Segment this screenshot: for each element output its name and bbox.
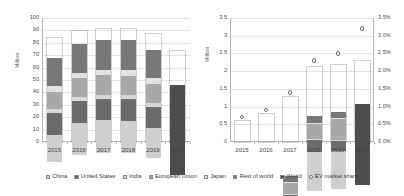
- y2-axis-tick-label: 0.0%: [378, 139, 391, 145]
- bar-segment-european-union: [47, 92, 62, 110]
- y-axis-tick-label: 40: [24, 89, 39, 95]
- y-axis-tick-label: 0.5: [214, 121, 227, 127]
- plot-area-right: 00.511.522.533.50.0%0.5%1.0%1.5%2.0%2.5%…: [230, 18, 374, 142]
- gridline: [230, 53, 374, 54]
- y-axis-tick-label: 0: [24, 139, 39, 145]
- x-axis-tick-label-2018: 2018: [116, 147, 141, 153]
- legend-item-label: Japan: [210, 174, 226, 180]
- x-axis-tick: [141, 142, 142, 144]
- gridline: [230, 71, 374, 72]
- bar-segment-india: [47, 109, 62, 113]
- gridline: [42, 68, 190, 69]
- y-axis-tick-label: 90: [24, 27, 39, 33]
- x-axis-tick: [302, 142, 303, 144]
- y2-axis-tick-label: 1.5%: [378, 86, 391, 92]
- y-axis-tick-label: 2: [214, 68, 227, 74]
- x-axis-tick: [165, 142, 166, 144]
- legend-item-japan[interactable]: Japan: [204, 174, 226, 180]
- legend-item-rest-of-world[interactable]: Rest of world: [233, 174, 273, 180]
- x-axis-tick-label-2020: 2020: [350, 147, 374, 153]
- y-axis-tick-label: 60: [24, 65, 39, 71]
- bar-segment-rest-of-world: [146, 50, 161, 78]
- bar-segment-japan: [331, 118, 346, 119]
- square-swatch-icon: [204, 175, 208, 179]
- legend-item-european-union[interactable]: European Union: [149, 174, 197, 180]
- gridline: [42, 80, 190, 81]
- legend-item-china[interactable]: China: [46, 174, 68, 180]
- x-axis-tick: [91, 142, 92, 144]
- square-swatch-icon: [74, 175, 78, 179]
- legend-item-ev-market-share[interactable]: EV market share: [309, 174, 359, 180]
- bar-segment-india: [307, 139, 322, 140]
- bar-segment-japan: [47, 86, 62, 91]
- gridline: [42, 55, 190, 56]
- bar-segment-european-union: [331, 119, 346, 140]
- y-axis-tick-label: 30: [24, 102, 39, 108]
- legend-item-label: European Union: [155, 174, 197, 180]
- ev-market-share-marker-2016: [264, 108, 269, 113]
- y2-axis-tick-label: 3.0%: [378, 33, 391, 39]
- x-axis-tick-label-2016: 2016: [67, 147, 92, 153]
- bar-segment-rest-of-world: [121, 40, 136, 70]
- bar-2017: [96, 29, 111, 142]
- legend-item-india[interactable]: India: [123, 174, 142, 180]
- x-axis-tick: [278, 142, 279, 144]
- legend-item-world[interactable]: World: [280, 174, 301, 180]
- bar-segment-china: [146, 128, 161, 158]
- bar-segment-japan: [307, 123, 322, 125]
- ev-market-share-marker-2020: [360, 26, 365, 31]
- gridline: [42, 130, 190, 131]
- x-axis-tick-label-2019: 2019: [141, 147, 166, 153]
- bar-segment-united-states: [121, 99, 136, 120]
- x-axis-tick: [254, 142, 255, 144]
- plot-area-left: 0102030405060708090100201520162017201820…: [42, 18, 190, 142]
- square-swatch-icon: [46, 175, 50, 179]
- y-axis-tick-label: 0: [214, 139, 227, 145]
- y2-axis-tick-label: 2.0%: [378, 68, 391, 74]
- bar-segment-rest-of-world: [47, 58, 62, 87]
- y-axis-tick-label: 1: [214, 104, 227, 110]
- y-axis-tick-label: 20: [24, 114, 39, 120]
- circle-swatch-icon: [309, 175, 313, 179]
- y2-axis-tick-label: 1.0%: [378, 104, 391, 110]
- bar-segment-european-union: [72, 78, 87, 97]
- bar-segment-india: [96, 95, 111, 99]
- gridline: [230, 18, 374, 19]
- bar-segment-rest-of-world: [72, 44, 87, 73]
- bar-segment-india: [121, 95, 136, 99]
- y-axis-tick-label: 2.5: [214, 50, 227, 56]
- y-axis-tick-label: 3.5: [214, 15, 227, 21]
- y2-axis-tick-label: 3.5%: [378, 15, 391, 21]
- x-axis-tick-label-2017: 2017: [278, 147, 302, 153]
- bar-2016: [259, 114, 274, 142]
- bar-2016: [72, 31, 87, 142]
- x-axis-tick: [374, 142, 375, 144]
- bar-2015: [235, 121, 250, 142]
- y-axis-title-left: Million: [14, 53, 20, 68]
- x-axis-tick-label-2015: 2015: [42, 147, 67, 153]
- bar-2015: [47, 38, 62, 142]
- chart-panel-global-car-sales: Million 01020304050607080901002015201620…: [0, 0, 200, 168]
- y-axis-tick-label: 10: [24, 127, 39, 133]
- bar-segment-rest-of-world: [96, 40, 111, 70]
- x-axis-tick-label-2018: 2018: [302, 147, 326, 153]
- y-axis-line: [42, 18, 43, 142]
- ev-market-share-marker-2018: [312, 58, 317, 63]
- x-axis-tick-label-2017: 2017: [91, 147, 116, 153]
- bar-segment-india: [331, 140, 346, 141]
- gridline: [230, 36, 374, 37]
- square-swatch-icon: [149, 175, 153, 179]
- legend-item-label: Rest of world: [239, 174, 273, 180]
- y2-axis-tick-label: 2.5%: [378, 50, 391, 56]
- bar-2018: [121, 29, 136, 142]
- ev-market-share-marker-2017: [288, 90, 293, 95]
- y-axis-tick-label: 50: [24, 77, 39, 83]
- y-axis-tick-label: 100: [24, 15, 39, 21]
- x-axis-tick: [67, 142, 68, 144]
- bar-segment-india: [72, 97, 87, 101]
- legend-item-united-states[interactable]: United States: [74, 174, 115, 180]
- bar-segment-rest-of-world: [307, 116, 322, 122]
- legend-item-label: China: [52, 174, 67, 180]
- bar-segment-united-states: [72, 101, 87, 123]
- gridline: [42, 18, 190, 19]
